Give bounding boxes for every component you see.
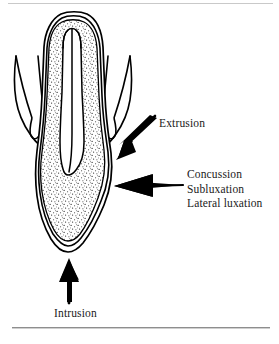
label-subluxation: Subluxation xyxy=(187,182,263,197)
figure-page: Extrusion Concussion Subluxation Lateral… xyxy=(0,0,279,344)
label-extrusion: Extrusion xyxy=(159,117,205,130)
extrusion-arrow xyxy=(116,115,157,160)
intrusion-arrow xyxy=(59,258,79,303)
label-luxation-group: Concussion Subluxation Lateral luxation xyxy=(187,167,263,211)
label-concussion: Concussion xyxy=(187,167,263,182)
label-intrusion: Intrusion xyxy=(54,307,97,320)
page-bottom-rule xyxy=(12,327,270,329)
label-lateral-luxation: Lateral luxation xyxy=(187,196,263,211)
lateral-arrow xyxy=(114,174,183,197)
